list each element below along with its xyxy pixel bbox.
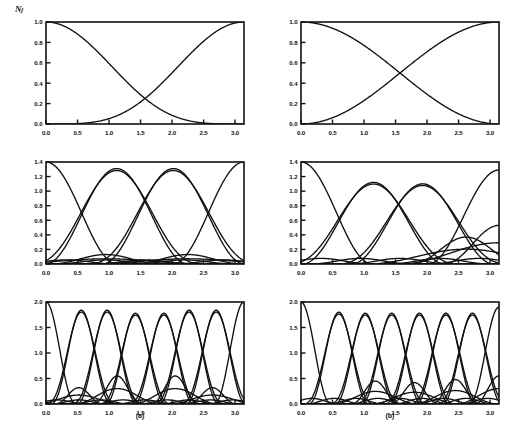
panel-a-row3: 0.00.51.01.52.02.53.00.00.51.01.52.0 xyxy=(0,288,255,428)
svg-text:1.2: 1.2 xyxy=(289,173,298,180)
svg-text:0.6: 0.6 xyxy=(34,217,43,224)
panel-a-row3-svg: 0.00.51.01.52.02.53.00.00.51.01.52.0 xyxy=(0,288,255,428)
svg-text:0.6: 0.6 xyxy=(289,217,298,224)
svg-text:2.0: 2.0 xyxy=(423,409,432,416)
svg-text:0.8: 0.8 xyxy=(289,39,298,46)
panel-a-row2: 0.00.51.01.52.02.53.00.00.20.40.60.81.01… xyxy=(0,148,255,288)
svg-text:1.5: 1.5 xyxy=(289,324,298,331)
svg-text:3.0: 3.0 xyxy=(231,409,240,416)
svg-text:1.0: 1.0 xyxy=(360,269,369,276)
panel-b-row1: 0.00.51.01.52.02.53.00.00.20.40.60.81.0 xyxy=(255,8,510,148)
svg-text:0.5: 0.5 xyxy=(328,269,337,276)
svg-text:0.8: 0.8 xyxy=(289,202,298,209)
svg-text:2.0: 2.0 xyxy=(168,129,177,136)
svg-text:1.0: 1.0 xyxy=(289,18,298,25)
svg-text:0.0: 0.0 xyxy=(289,260,298,267)
svg-text:1.4: 1.4 xyxy=(289,158,298,165)
svg-text:2.5: 2.5 xyxy=(454,409,463,416)
svg-text:1.5: 1.5 xyxy=(34,324,43,331)
svg-text:0.0: 0.0 xyxy=(297,269,306,276)
svg-text:1.2: 1.2 xyxy=(34,173,43,180)
svg-text:1.0: 1.0 xyxy=(360,129,369,136)
svg-text:1.5: 1.5 xyxy=(391,269,400,276)
panel-b-row3-svg: 0.00.51.01.52.02.53.00.00.51.01.52.0 xyxy=(255,288,510,428)
panel-b-row2: 0.00.51.01.52.02.53.00.00.20.40.60.81.01… xyxy=(255,148,510,288)
panel-a-row1-svg: 0.00.51.01.52.02.53.00.00.20.40.60.81.0 xyxy=(0,8,255,148)
svg-text:2.5: 2.5 xyxy=(454,269,463,276)
panel-b-row3: 0.00.51.01.52.02.53.00.00.51.01.52.0 xyxy=(255,288,510,428)
svg-text:2.0: 2.0 xyxy=(423,129,432,136)
svg-text:1.0: 1.0 xyxy=(289,349,298,356)
svg-text:0.4: 0.4 xyxy=(289,80,298,87)
panel-b-row1-svg: 0.00.51.01.52.02.53.00.00.20.40.60.81.0 xyxy=(255,8,510,148)
subcaption-a: (a) xyxy=(120,412,160,419)
svg-text:0.5: 0.5 xyxy=(289,375,298,382)
svg-text:3.0: 3.0 xyxy=(486,129,495,136)
svg-text:3.0: 3.0 xyxy=(486,409,495,416)
svg-text:2.0: 2.0 xyxy=(34,298,43,305)
figure-basis-functions: Nⱼ 0.00.51.01.52.02.53.00.00.20.40.60.81… xyxy=(0,0,510,438)
svg-text:0.0: 0.0 xyxy=(34,260,43,267)
svg-text:0.6: 0.6 xyxy=(34,59,43,66)
svg-text:0.0: 0.0 xyxy=(289,400,298,407)
svg-text:2.5: 2.5 xyxy=(199,409,208,416)
svg-text:0.0: 0.0 xyxy=(42,269,51,276)
svg-text:1.0: 1.0 xyxy=(34,18,43,25)
svg-text:0.5: 0.5 xyxy=(73,269,82,276)
svg-text:0.0: 0.0 xyxy=(42,129,51,136)
svg-text:3.0: 3.0 xyxy=(231,269,240,276)
svg-text:0.0: 0.0 xyxy=(297,409,306,416)
svg-text:1.0: 1.0 xyxy=(105,409,114,416)
svg-text:1.0: 1.0 xyxy=(289,187,298,194)
svg-text:0.2: 0.2 xyxy=(34,246,43,253)
svg-text:1.0: 1.0 xyxy=(34,349,43,356)
svg-text:0.0: 0.0 xyxy=(289,120,298,127)
svg-text:2.0: 2.0 xyxy=(289,298,298,305)
svg-text:1.5: 1.5 xyxy=(391,129,400,136)
svg-text:2.5: 2.5 xyxy=(199,269,208,276)
svg-text:0.0: 0.0 xyxy=(42,409,51,416)
svg-text:0.2: 0.2 xyxy=(289,246,298,253)
svg-text:2.0: 2.0 xyxy=(168,269,177,276)
svg-text:0.0: 0.0 xyxy=(297,129,306,136)
svg-text:0.2: 0.2 xyxy=(289,100,298,107)
svg-text:0.6: 0.6 xyxy=(289,59,298,66)
svg-text:0.2: 0.2 xyxy=(34,100,43,107)
svg-text:3.0: 3.0 xyxy=(231,129,240,136)
svg-text:1.0: 1.0 xyxy=(360,409,369,416)
panel-a-row1: 0.00.51.01.52.02.53.00.00.20.40.60.81.0 xyxy=(0,8,255,148)
svg-text:1.4: 1.4 xyxy=(34,158,43,165)
svg-text:2.0: 2.0 xyxy=(423,269,432,276)
svg-text:0.0: 0.0 xyxy=(34,400,43,407)
panel-b-row2-svg: 0.00.51.01.52.02.53.00.00.20.40.60.81.01… xyxy=(255,148,510,288)
svg-text:1.5: 1.5 xyxy=(136,129,145,136)
svg-text:0.5: 0.5 xyxy=(34,375,43,382)
svg-text:0.0: 0.0 xyxy=(34,120,43,127)
svg-text:1.0: 1.0 xyxy=(105,269,114,276)
svg-text:0.5: 0.5 xyxy=(73,129,82,136)
svg-text:1.0: 1.0 xyxy=(105,129,114,136)
svg-text:0.4: 0.4 xyxy=(34,80,43,87)
svg-text:0.5: 0.5 xyxy=(328,409,337,416)
svg-text:0.8: 0.8 xyxy=(34,202,43,209)
svg-text:0.5: 0.5 xyxy=(328,129,337,136)
svg-text:1.0: 1.0 xyxy=(34,187,43,194)
svg-text:2.5: 2.5 xyxy=(199,129,208,136)
svg-text:0.4: 0.4 xyxy=(289,231,298,238)
panel-a-row2-svg: 0.00.51.01.52.02.53.00.00.20.40.60.81.01… xyxy=(0,148,255,288)
svg-text:3.0: 3.0 xyxy=(486,269,495,276)
svg-text:0.8: 0.8 xyxy=(34,39,43,46)
svg-text:0.5: 0.5 xyxy=(73,409,82,416)
svg-text:0.4: 0.4 xyxy=(34,231,43,238)
svg-text:2.5: 2.5 xyxy=(454,129,463,136)
svg-text:1.5: 1.5 xyxy=(136,269,145,276)
svg-text:2.0: 2.0 xyxy=(168,409,177,416)
subcaption-b: (b) xyxy=(370,412,410,419)
